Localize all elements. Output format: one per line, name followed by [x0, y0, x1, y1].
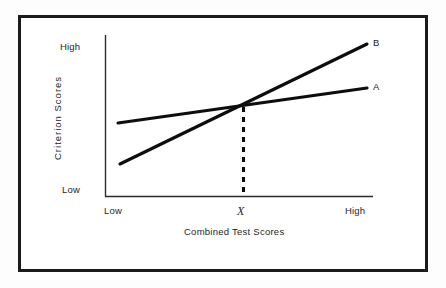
x-axis-tick-high: High [345, 205, 365, 216]
series-label-a: A [373, 81, 379, 92]
x-axis-tick-x: X [237, 204, 245, 219]
x-axis-title: Combined Test Scores [184, 226, 284, 237]
x-axis-tick-low: Low [104, 205, 122, 216]
series-label-b: B [373, 37, 379, 48]
series-line-b [120, 44, 367, 164]
figure-root: High Low Criterion Scores Low X High Com… [0, 0, 446, 288]
y-axis-tick-high: High [60, 41, 80, 52]
y-axis-title: Criterion Scores [52, 76, 63, 160]
y-axis-tick-low: Low [62, 184, 80, 195]
